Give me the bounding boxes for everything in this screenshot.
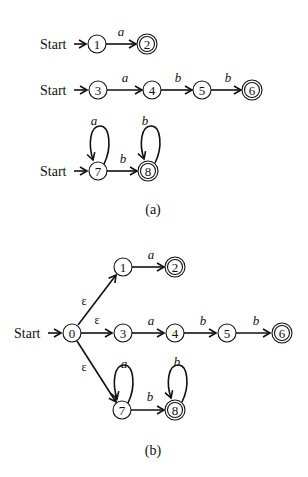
state-0: 0 [63,324,81,342]
svg-text:3: 3 [95,83,102,98]
transition-label: a [121,356,128,371]
svg-text:8: 8 [145,164,152,179]
nfa-a-row-1: Start 1 a 2 [40,24,157,54]
nfa-a-row-2: Start 3 a 4 b 5 b 6 [40,70,262,100]
svg-text:6: 6 [249,83,256,98]
transition-label: a [122,70,129,85]
self-loop-8 [168,365,187,402]
svg-text:2: 2 [144,37,151,52]
svg-text:0: 0 [69,326,76,341]
transition-label: b [174,354,181,369]
transition-label: ε [81,294,86,308]
transition-label: b [142,113,149,128]
state-7: 7 [89,162,107,180]
nfa-figure: Start 1 a 2 Start 3 a [0,0,308,477]
panel-b: Start 0 ε 1 a 2 ε 3 a 4 [14,247,292,459]
transition-label: b [175,70,182,85]
state-2-accepting: 2 [137,34,157,54]
transition-label: b [147,389,154,404]
svg-text:6: 6 [279,326,286,341]
self-loop-8 [141,126,160,163]
svg-text:4: 4 [149,83,156,98]
svg-text:5: 5 [224,326,231,341]
transition-label: b [225,70,232,85]
state-4: 4 [143,81,161,99]
start-label: Start [40,164,67,179]
panel-a: Start 1 a 2 Start 3 a [40,24,262,218]
state-8-accepting: 8 [165,400,185,420]
state-2-accepting: 2 [165,257,185,277]
state-4: 4 [166,324,184,342]
state-7: 7 [113,401,131,419]
state-5: 5 [193,81,211,99]
transition-label: b [200,313,207,328]
transition-label: b [120,151,127,166]
svg-text:4: 4 [172,326,179,341]
svg-text:1: 1 [120,260,127,275]
state-3: 3 [114,324,132,342]
transition-label: a [148,247,155,262]
state-5: 5 [218,324,236,342]
svg-text:5: 5 [199,83,206,98]
transition-label: a [148,313,155,328]
transition-label: b [253,313,260,328]
state-3: 3 [89,81,107,99]
state-1: 1 [88,35,106,53]
nfa-a-row-3: Start 7 a b 8 b [40,113,160,181]
svg-text:7: 7 [95,164,102,179]
transition-label: a [91,113,98,128]
state-8-accepting: 8 [138,161,158,181]
start-label: Start [40,37,67,52]
svg-text:3: 3 [120,326,127,341]
self-loop-7 [90,126,109,164]
svg-text:1: 1 [94,37,101,52]
caption-b: (b) [145,443,162,459]
svg-text:2: 2 [172,260,179,275]
caption-a: (a) [145,202,161,218]
start-label: Start [40,83,67,98]
state-6-accepting: 6 [242,80,262,100]
transition-label: ε [94,313,99,327]
state-6-accepting: 6 [272,323,292,343]
start-label: Start [14,326,41,341]
transition-label: a [118,24,125,39]
transition-label: ε [81,360,86,374]
svg-text:8: 8 [172,403,179,418]
state-1: 1 [114,258,132,276]
svg-text:7: 7 [119,403,126,418]
